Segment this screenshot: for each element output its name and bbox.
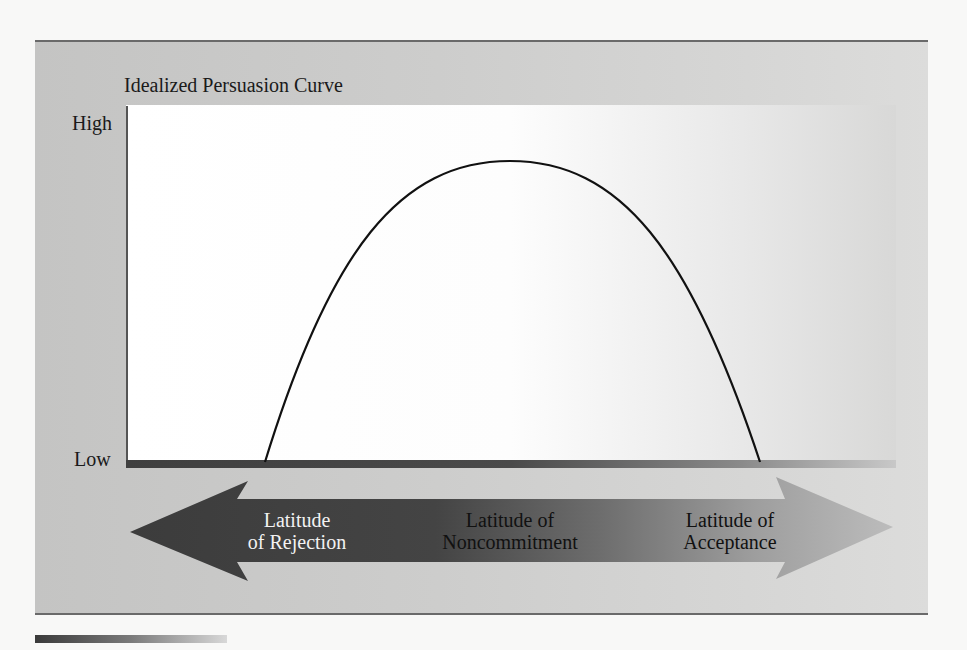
noncommitment-line-1: Latitude of (420, 509, 600, 531)
decorative-gradient-bar (35, 635, 227, 643)
rejection-line-2: of Rejection (232, 531, 362, 553)
latitude-of-noncommitment-label: Latitude of Noncommitment (420, 509, 600, 553)
latitude-of-acceptance-label: Latitude of Acceptance (660, 509, 800, 553)
acceptance-line-2: Acceptance (660, 531, 800, 553)
acceptance-line-1: Latitude of (660, 509, 800, 531)
latitude-of-rejection-label: Latitude of Rejection (232, 509, 362, 553)
rejection-line-1: Latitude (232, 509, 362, 531)
noncommitment-line-2: Noncommitment (420, 531, 600, 553)
figure-page: Idealized Persuasion Curve High Low Lati… (0, 0, 967, 650)
